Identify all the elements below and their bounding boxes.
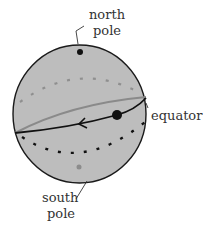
south-pole-dot (77, 165, 82, 170)
equator-label: equator (151, 108, 203, 123)
north-pole-leader (76, 26, 84, 44)
south-pole-label-line2: pole (47, 206, 75, 221)
south-pole-label-line1: south (42, 190, 79, 205)
equator-point (112, 110, 122, 120)
north-pole-label-line1: north (89, 7, 126, 22)
north-pole-dot (77, 49, 83, 55)
sphere (13, 45, 146, 183)
north-pole-label-line2: pole (93, 23, 121, 38)
sphere-svg: north pole equator south pole (0, 0, 203, 228)
sphere-diagram: north pole equator south pole (0, 0, 203, 228)
